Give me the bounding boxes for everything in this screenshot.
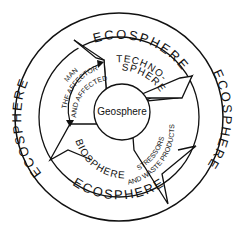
ecosphere-diagram: Geosphere ECOSPHERE ECOSPHERE ECOSPHERE … (0, 0, 238, 232)
geosphere-label: Geosphere (97, 106, 147, 117)
geosphere-core: Geosphere (94, 84, 150, 140)
ecosphere-label-left: ECOSPHERE (9, 75, 44, 180)
ecosphere-label-right: ECOSPHERE (204, 67, 235, 173)
